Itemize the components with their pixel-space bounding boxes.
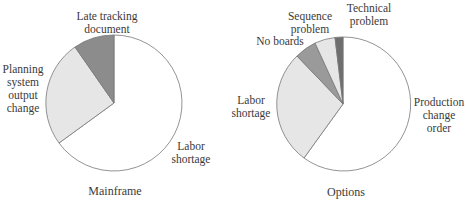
label-line: Sequence	[280, 10, 340, 23]
label-production-change-order: Production change order	[412, 96, 466, 135]
label-line: Labor	[168, 140, 214, 153]
pie-options	[277, 37, 411, 171]
label-line: change	[0, 102, 46, 115]
pie-mainframe	[46, 35, 182, 171]
label-line: document	[44, 23, 170, 36]
label-technical-problem: Technical problem	[334, 2, 404, 28]
label-line: Planning	[0, 63, 46, 76]
label-late-tracking-document: Late tracking document	[44, 10, 170, 36]
label-line: output	[0, 89, 46, 102]
label-line: problem	[334, 15, 404, 28]
label-planning-system-output-change: Planning system output change	[0, 63, 46, 115]
label-line: Technical	[334, 2, 404, 15]
label-line: Labor	[229, 94, 273, 107]
label-line: order	[412, 122, 466, 135]
caption-mainframe: Mainframe	[80, 184, 150, 199]
label-line: shortage	[168, 153, 214, 166]
label-line: Late tracking	[44, 10, 170, 23]
label-line: change	[412, 109, 466, 122]
label-sequence-problem: Sequence problem	[280, 10, 340, 36]
label-labor-shortage: Labor shortage	[229, 94, 273, 120]
label-labor-shortage: Labor shortage	[168, 140, 214, 166]
caption-options: Options	[318, 185, 374, 200]
label-no-boards: No boards	[252, 35, 308, 48]
label-line: shortage	[229, 107, 273, 120]
label-line: Production	[412, 96, 466, 109]
label-line: system	[0, 76, 46, 89]
